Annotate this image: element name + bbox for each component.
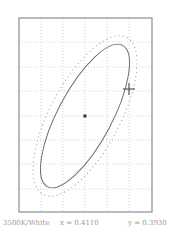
y-coordinate-value: y = 0.3930 <box>128 219 167 227</box>
target-point-icon <box>84 115 87 118</box>
measured-point-cross-icon <box>123 83 135 95</box>
x-coordinate-value: x = 0.4110 <box>60 219 99 227</box>
color-name-label: 3500K/White <box>3 219 49 227</box>
chromaticity-plot <box>0 0 171 238</box>
